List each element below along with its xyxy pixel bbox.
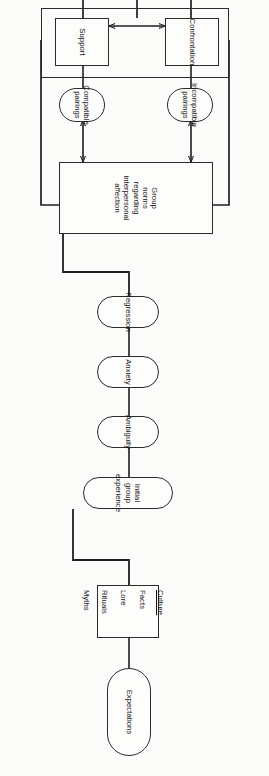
node-ambiguity[interactable]: Ambiguity <box>97 416 159 448</box>
diagram-rotation-wrapper: Confrontation Support Incompatible pairi… <box>0 0 269 776</box>
node-group-norms-label: Group norms regarding interpersonal affe… <box>113 173 159 222</box>
connector-layer <box>0 0 269 776</box>
node-ambiguity-label: Ambiguity <box>123 413 132 451</box>
node-support-label: Support <box>77 26 86 57</box>
node-regression-label: Regression <box>123 290 132 333</box>
node-culture-item-2: Rituals <box>100 590 109 614</box>
node-culture-item-0: Facts <box>138 590 147 609</box>
flowchart-canvas: Confrontation Support Incompatible pairi… <box>0 0 269 776</box>
node-culture-item-1: Lore <box>119 590 128 606</box>
node-confrontation-label: Confrontation <box>187 17 196 68</box>
node-incompatible-pairings[interactable]: Incompatible pairings <box>167 88 213 122</box>
node-anxiety[interactable]: Anxiety <box>97 356 159 388</box>
node-initial-group-experience-label: Initial group experience <box>114 472 142 514</box>
node-confrontation[interactable]: Confrontation <box>165 18 219 66</box>
node-group-norms[interactable]: Group norms regarding interpersonal affe… <box>59 162 213 234</box>
node-culture-item-3: Myths <box>82 590 91 611</box>
node-support[interactable]: Support <box>55 18 109 66</box>
node-incompatible-pairings-label: Incompatible pairings <box>181 81 200 129</box>
node-compatible-pairings[interactable]: Compatible pairings <box>59 88 105 122</box>
node-anxiety-label: Anxiety <box>123 357 132 387</box>
node-regression[interactable]: Regression <box>97 296 159 328</box>
node-compatible-pairings-label: Compatible pairings <box>73 83 92 126</box>
node-expectations[interactable]: Expectations <box>107 668 151 756</box>
node-culture-label: Culture Facts Lore Rituals Myths <box>82 586 175 617</box>
node-culture[interactable]: Culture Facts Lore Rituals Myths <box>97 585 159 638</box>
node-expectations-label: Expectations <box>124 688 133 737</box>
link-culture-initial <box>73 509 129 585</box>
node-initial-group-experience[interactable]: Initial group experience <box>83 477 173 509</box>
node-culture-heading: Culture <box>156 590 165 615</box>
link-regression-groupnorms <box>63 234 129 296</box>
